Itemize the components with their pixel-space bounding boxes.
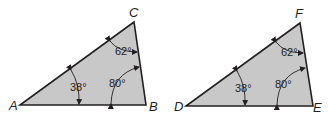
angle-label-b: 80°	[109, 77, 126, 89]
angle-label-c: 62°	[115, 45, 132, 57]
vertex-label-a: A	[8, 98, 18, 113]
angle-label-a: 38°	[70, 81, 87, 93]
vertex-label-c: C	[129, 5, 139, 20]
angle-label-e: 80°	[275, 78, 292, 90]
vertex-label-f: F	[295, 6, 304, 21]
triangle-def: 38° 80° 62° D E F	[174, 6, 322, 115]
angle-label-d: 38°	[235, 82, 252, 94]
angle-label-f: 62°	[281, 46, 298, 58]
vertex-label-d: D	[174, 99, 183, 114]
triangle-abc: 38° 80° 62° A B C	[8, 5, 158, 114]
vertex-label-e: E	[313, 100, 322, 115]
similar-triangles-diagram: 38° 80° 62° A B C 38° 80° 62° D E F	[0, 0, 328, 118]
vertex-label-b: B	[149, 99, 158, 114]
